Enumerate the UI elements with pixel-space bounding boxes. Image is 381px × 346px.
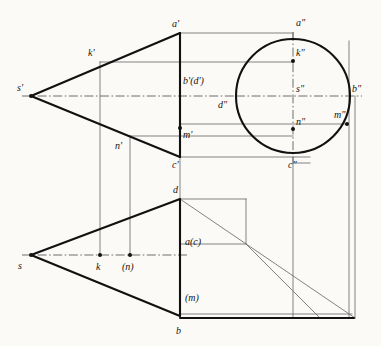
label-s-prime: s' bbox=[17, 83, 23, 93]
label-m-prime: m' bbox=[183, 130, 192, 140]
label-k-dprime: k" bbox=[296, 48, 305, 58]
label-d-top: d bbox=[173, 185, 178, 195]
label-d-dprime: d" bbox=[218, 100, 227, 110]
label-b-top: b bbox=[176, 326, 181, 336]
point-marker-s-prime bbox=[29, 94, 33, 98]
front-cone-lower-edge bbox=[31, 96, 180, 157]
label-b-dprime: b" bbox=[352, 84, 361, 94]
label-a-dprime: a" bbox=[296, 18, 305, 28]
label-c-dprime: c" bbox=[288, 160, 297, 170]
top-cone-lower-edge bbox=[31, 255, 180, 316]
center-axis-lines-group bbox=[22, 32, 362, 255]
label-s-dprime: s" bbox=[296, 84, 304, 94]
top-cone-upper-edge bbox=[31, 199, 180, 255]
label-n-top: (n) bbox=[122, 262, 134, 272]
front-cone-upper-edge bbox=[31, 33, 180, 96]
point-marker-n-top bbox=[128, 253, 132, 257]
label-k-top: k bbox=[96, 262, 100, 272]
label-c-prime: c' bbox=[172, 160, 179, 170]
label-n-prime: n' bbox=[115, 141, 122, 151]
label-n-dprime: n" bbox=[296, 117, 305, 127]
label-m-top: (m) bbox=[185, 293, 199, 303]
point-marker-n-dprime bbox=[291, 127, 295, 131]
point-marker-k-dprime bbox=[291, 59, 295, 63]
point-marker-m-prime bbox=[178, 126, 182, 130]
label-ac-top: a(c) bbox=[185, 237, 201, 247]
point-marker-s-top bbox=[29, 253, 33, 257]
label-a-prime: a' bbox=[172, 19, 179, 29]
label-m-dprime: m" bbox=[334, 110, 345, 120]
projection-lines-group bbox=[100, 33, 355, 318]
label-bd-prime: b'(d') bbox=[183, 76, 204, 86]
point-marker-m-dprime bbox=[345, 122, 349, 126]
label-s-top: s bbox=[18, 261, 22, 271]
label-k-prime: k' bbox=[88, 48, 95, 58]
top-right-corner-diagonal bbox=[180, 199, 355, 318]
technical-drawing-canvas: s'k'a'b'(d')m'n'c'a"k"s"b"d"m"n"c"sk(n)d… bbox=[0, 0, 381, 346]
miter-45-line bbox=[246, 244, 320, 318]
point-marker-k-top bbox=[98, 253, 102, 257]
